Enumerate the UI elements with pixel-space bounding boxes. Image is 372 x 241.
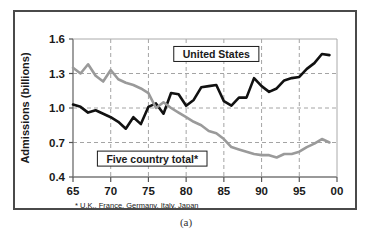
x-tick-label: 95 xyxy=(293,185,306,197)
chart-frame: 1.61.31.00.70.46570758085909500Admission… xyxy=(13,10,357,210)
x-tick-label: 70 xyxy=(104,185,117,197)
figure-root: 1.61.31.00.70.46570758085909500Admission… xyxy=(0,0,372,241)
y-axis-title: Admissions (billions) xyxy=(19,52,31,164)
y-tick-label: 1.3 xyxy=(49,68,65,80)
x-tick-label: 90 xyxy=(255,185,268,197)
x-tick-label: 00 xyxy=(331,185,344,197)
figure-caption: (a) xyxy=(0,216,372,228)
y-tick-label: 1.0 xyxy=(49,102,65,114)
y-tick-label: 0.4 xyxy=(49,171,66,183)
x-tick-label: 80 xyxy=(180,185,193,197)
chart-footnote: * U.K., France, Germany, Italy, Japan xyxy=(75,201,199,208)
x-tick-label: 75 xyxy=(142,185,155,197)
united-states-label: United States xyxy=(183,48,250,60)
y-tick-label: 0.7 xyxy=(49,137,65,149)
y-tick-label: 1.6 xyxy=(49,33,65,45)
series-line-united-states xyxy=(73,54,329,129)
x-tick-label: 65 xyxy=(67,185,80,197)
x-tick-label: 85 xyxy=(217,185,230,197)
chart-svg: 1.61.31.00.70.46570758085909500Admission… xyxy=(15,12,355,208)
five-country-label: Five country total* xyxy=(106,153,199,165)
